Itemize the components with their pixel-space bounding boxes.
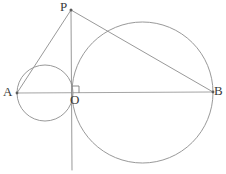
point-label-p: P: [60, 0, 67, 13]
segment-ab: [17, 92, 213, 93]
vertex-dot-p: [70, 9, 73, 12]
vertex-dot-a: [16, 92, 19, 95]
segment-ap: [17, 10, 71, 93]
geometry-canvas: [0, 0, 226, 174]
point-label-o: O: [70, 93, 79, 106]
geometry-figure: P A O B: [0, 0, 226, 174]
segment-po-vertical: [71, 10, 72, 170]
point-label-b: B: [214, 84, 223, 97]
point-label-a: A: [3, 85, 12, 98]
